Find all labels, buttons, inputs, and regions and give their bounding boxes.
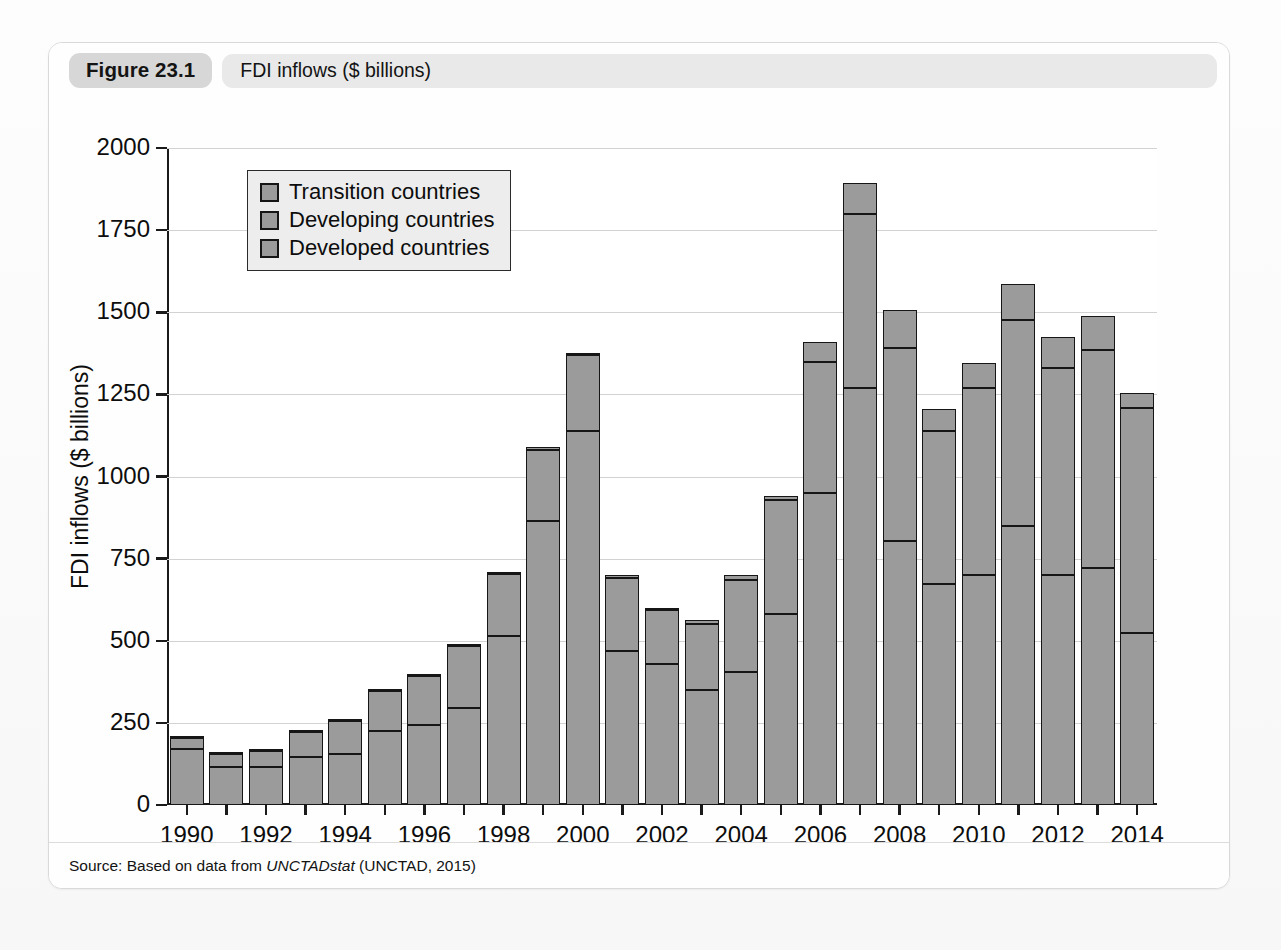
bar-segment[interactable] (209, 754, 243, 767)
bar-segment[interactable] (566, 431, 600, 805)
bar-segment[interactable] (764, 614, 798, 805)
bar-segment[interactable] (1041, 368, 1075, 575)
bar-segment[interactable] (843, 183, 877, 213)
bar-segment[interactable] (487, 574, 521, 635)
bar-group-2014[interactable] (1120, 148, 1154, 805)
bar-segment[interactable] (249, 767, 283, 805)
bar-group-1999[interactable] (526, 148, 560, 805)
bar-segment[interactable] (566, 353, 600, 355)
bar-group-2006[interactable] (803, 148, 837, 805)
bar-segment[interactable] (843, 388, 877, 805)
plot-region: 025050075010001250150017502000 199019921… (167, 148, 1157, 805)
bar-segment[interactable] (764, 496, 798, 499)
bar-group-2010[interactable] (962, 148, 996, 805)
bar-segment[interactable] (447, 644, 481, 646)
bar-segment[interactable] (209, 752, 243, 754)
y-axis-tick-label: 1000 (97, 462, 150, 490)
bar-segment[interactable] (645, 610, 679, 664)
bar-segment[interactable] (170, 749, 204, 805)
bar-segment[interactable] (1081, 316, 1115, 350)
bar-segment[interactable] (843, 214, 877, 388)
bar-segment[interactable] (883, 310, 917, 349)
bar-segment[interactable] (487, 572, 521, 574)
bar-segment[interactable] (1001, 320, 1035, 525)
bar-group-2000[interactable] (566, 148, 600, 805)
bar-segment[interactable] (1081, 568, 1115, 805)
bar-segment[interactable] (289, 757, 323, 805)
legend-item[interactable]: Transition countries (260, 179, 494, 205)
bar-segment[interactable] (605, 578, 639, 651)
bar-segment[interactable] (962, 575, 996, 805)
bar-segment[interactable] (962, 388, 996, 575)
bar-segment[interactable] (922, 431, 956, 585)
bar-group-2011[interactable] (1001, 148, 1035, 805)
bar-segment[interactable] (724, 580, 758, 672)
bar-segment[interactable] (685, 624, 719, 690)
bar-group-2002[interactable] (645, 148, 679, 805)
bar-group-2009[interactable] (922, 148, 956, 805)
bar-group-1990[interactable] (170, 148, 204, 805)
bar-segment[interactable] (447, 646, 481, 708)
bar-segment[interactable] (803, 342, 837, 362)
bar-segment[interactable] (289, 730, 323, 732)
bar-segment[interactable] (962, 363, 996, 388)
bar-segment[interactable] (724, 575, 758, 580)
bar-segment[interactable] (764, 500, 798, 615)
bar-group-2004[interactable] (724, 148, 758, 805)
bar-segment[interactable] (1001, 526, 1035, 805)
bar-segment[interactable] (368, 689, 402, 691)
bar-segment[interactable] (566, 355, 600, 431)
bar-group-2008[interactable] (883, 148, 917, 805)
bar-segment[interactable] (605, 575, 639, 578)
bar-segment[interactable] (170, 736, 204, 738)
bar-group-2012[interactable] (1041, 148, 1075, 805)
bar-segment[interactable] (170, 738, 204, 749)
legend-item[interactable]: Developed countries (260, 235, 494, 261)
bar-segment[interactable] (685, 620, 719, 624)
bar-segment[interactable] (645, 608, 679, 610)
bar-segment[interactable] (447, 708, 481, 805)
bar-segment[interactable] (883, 348, 917, 540)
bar-group-2007[interactable] (843, 148, 877, 805)
bar-group-2005[interactable] (764, 148, 798, 805)
bar-segment[interactable] (526, 450, 560, 521)
bar-segment[interactable] (1120, 408, 1154, 633)
bar-segment[interactable] (407, 725, 441, 805)
bar-segment[interactable] (328, 719, 362, 721)
bar-segment[interactable] (328, 721, 362, 754)
bar-segment[interactable] (1001, 284, 1035, 320)
bar-segment[interactable] (249, 751, 283, 767)
bar-segment[interactable] (922, 584, 956, 805)
bar-segment[interactable] (922, 409, 956, 430)
bar-segment[interactable] (526, 521, 560, 805)
bar-segment[interactable] (407, 676, 441, 724)
bar-segment[interactable] (526, 447, 560, 450)
bar-segment[interactable] (249, 749, 283, 751)
bar-segment[interactable] (209, 767, 243, 805)
bar-segment[interactable] (1041, 575, 1075, 805)
bar-segment[interactable] (883, 541, 917, 805)
legend-item[interactable]: Developing countries (260, 207, 494, 233)
bar-segment[interactable] (803, 493, 837, 805)
x-axis-tick (1136, 805, 1139, 815)
bar-segment[interactable] (645, 664, 679, 805)
bar-segment[interactable] (368, 691, 402, 731)
bar-group-2001[interactable] (605, 148, 639, 805)
bar-segment[interactable] (1041, 337, 1075, 368)
bar-segment[interactable] (487, 636, 521, 805)
y-axis-tick-label: 750 (110, 544, 150, 572)
bar-segment[interactable] (605, 651, 639, 805)
bar-segment[interactable] (1120, 633, 1154, 805)
bar-segment[interactable] (368, 731, 402, 805)
bar-segment[interactable] (685, 690, 719, 805)
bar-segment[interactable] (803, 362, 837, 493)
bar-group-2013[interactable] (1081, 148, 1115, 805)
bar-segment[interactable] (407, 674, 441, 676)
bar-segment[interactable] (1081, 350, 1115, 568)
bar-segment[interactable] (328, 754, 362, 805)
bar-group-2003[interactable] (685, 148, 719, 805)
bar-segment[interactable] (724, 672, 758, 805)
bar-segment[interactable] (1120, 393, 1154, 408)
bar-segment[interactable] (289, 732, 323, 758)
bar-group-1991[interactable] (209, 148, 243, 805)
